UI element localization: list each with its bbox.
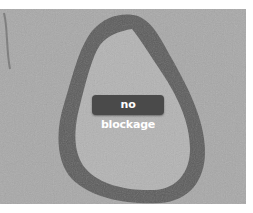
no-blockage-label: no blockage [92,95,164,115]
histology-image: no blockage [0,9,246,204]
